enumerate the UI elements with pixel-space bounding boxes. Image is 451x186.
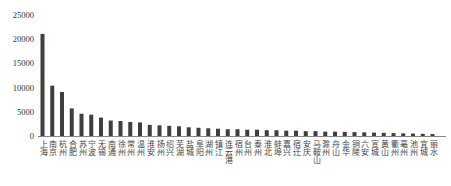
bar: [323, 132, 327, 136]
y-axis: 0500010000150002000025000: [13, 10, 34, 141]
x-tick-label: 丽水: [428, 140, 437, 156]
bar: [158, 125, 162, 136]
x-tick-label: 黄山: [379, 139, 388, 157]
x-tick-label: 合肥: [67, 139, 76, 157]
bar: [50, 86, 54, 136]
bar: [197, 128, 201, 136]
x-tick-label: 绍兴: [165, 139, 174, 157]
x-tick-label: 徐州: [116, 139, 125, 156]
x-tick-label: 泰州: [253, 139, 262, 156]
y-tick-label: 5000: [17, 107, 34, 117]
x-tick-label: 六安: [360, 139, 369, 157]
bar: [128, 122, 132, 136]
bars: [41, 34, 435, 136]
bar: [401, 133, 405, 136]
bar: [138, 122, 142, 136]
x-tick-label: 阜阳: [194, 139, 203, 157]
bar: [60, 92, 64, 136]
x-tick-label: 台州: [243, 139, 252, 156]
x-tick-label: 舟山: [331, 139, 340, 157]
x-tick-label: 无锡: [97, 140, 106, 157]
x-tick-label: 上海: [38, 140, 47, 157]
bar: [411, 134, 415, 136]
bar: [177, 126, 181, 136]
y-tick-label: 15000: [13, 58, 34, 68]
x-tick-label: 宿迁: [292, 139, 301, 157]
bar: [333, 132, 337, 136]
x-tick-label: 淮安: [145, 139, 154, 157]
x-tick-label: 镇江: [214, 139, 223, 157]
bar: [99, 118, 103, 136]
x-tick-label: 池州: [409, 139, 418, 156]
x-tick-label: 亳州: [399, 139, 408, 156]
bar: [41, 34, 45, 136]
bar: [255, 130, 259, 136]
bar: [245, 130, 249, 136]
bar: [275, 130, 279, 136]
bar: [372, 133, 376, 136]
bar: [284, 131, 288, 136]
bar: [167, 126, 171, 136]
bar: [70, 108, 74, 136]
bar: [216, 129, 220, 136]
x-tick-label: 安庆: [301, 139, 310, 157]
x-tick-label: 蚌埠: [272, 139, 281, 157]
x-tick-label: 宜城: [418, 139, 427, 157]
bar: [314, 131, 318, 136]
x-tick-label: 马鞍山: [311, 140, 320, 165]
y-tick-label: 0: [30, 131, 34, 141]
bar: [294, 131, 298, 136]
bar: [119, 121, 123, 136]
bar: [362, 132, 366, 136]
bar: [89, 115, 93, 136]
bar: [343, 132, 347, 136]
y-tick-label: 10000: [13, 83, 34, 93]
bar: [304, 131, 308, 136]
x-tick-label: 温州: [136, 140, 145, 156]
x-tick-label: 淮北: [262, 139, 271, 157]
y-tick-label: 20000: [13, 34, 34, 44]
x-tick-label: 南通: [106, 139, 115, 157]
bar: [382, 133, 386, 136]
bar: [206, 128, 210, 136]
bar: [265, 130, 269, 136]
x-tick-label: 湖州: [204, 140, 213, 156]
bar: [421, 134, 425, 136]
bar: [109, 121, 113, 136]
x-tick-label: 滁州: [321, 139, 330, 156]
bar: [187, 127, 191, 136]
x-tick-label: 芜湖: [175, 139, 184, 157]
x-tick-label: 南京: [48, 139, 57, 157]
y-tick-label: 25000: [13, 10, 34, 20]
bar: [431, 134, 435, 136]
bar: [353, 132, 357, 136]
x-tick-label: 金华: [340, 139, 349, 157]
x-tick-label: 连云港: [223, 139, 232, 165]
bar: [148, 125, 152, 136]
x-axis-labels: 上海南京杭州合肥苏州宁波无锡南通徐州常州温州淮安扬州绍兴芜湖盐城阜阳湖州镇江连云…: [38, 139, 437, 165]
x-tick-label: 杭州: [58, 139, 67, 156]
x-tick-label: 苏州: [77, 139, 86, 156]
x-tick-label: 宣城: [370, 139, 379, 157]
x-tick-label: 嘉兴: [282, 139, 291, 157]
x-tick-label: 宿州: [233, 139, 242, 156]
x-tick-label: 衢州: [389, 139, 398, 156]
bar: [80, 114, 84, 136]
bar: [392, 133, 396, 136]
x-tick-label: 盐城: [184, 139, 193, 157]
bar: [236, 129, 240, 136]
x-tick-label: 扬州: [155, 139, 164, 156]
x-tick-label: 宁波: [87, 139, 96, 157]
bar-chart: 0500010000150002000025000 上海南京杭州合肥苏州宁波无锡…: [0, 0, 451, 186]
x-tick-label: 常州: [126, 140, 135, 156]
x-tick-label: 铜陵: [350, 139, 359, 157]
bar: [226, 129, 230, 136]
